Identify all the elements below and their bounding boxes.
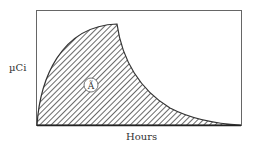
x-axis-label: Hours bbox=[126, 131, 157, 142]
cumulated-activity-area bbox=[37, 24, 241, 125]
area-label: Ã bbox=[84, 78, 98, 92]
y-axis-label: µCi bbox=[9, 62, 26, 73]
activity-curve-diagram bbox=[0, 0, 256, 151]
